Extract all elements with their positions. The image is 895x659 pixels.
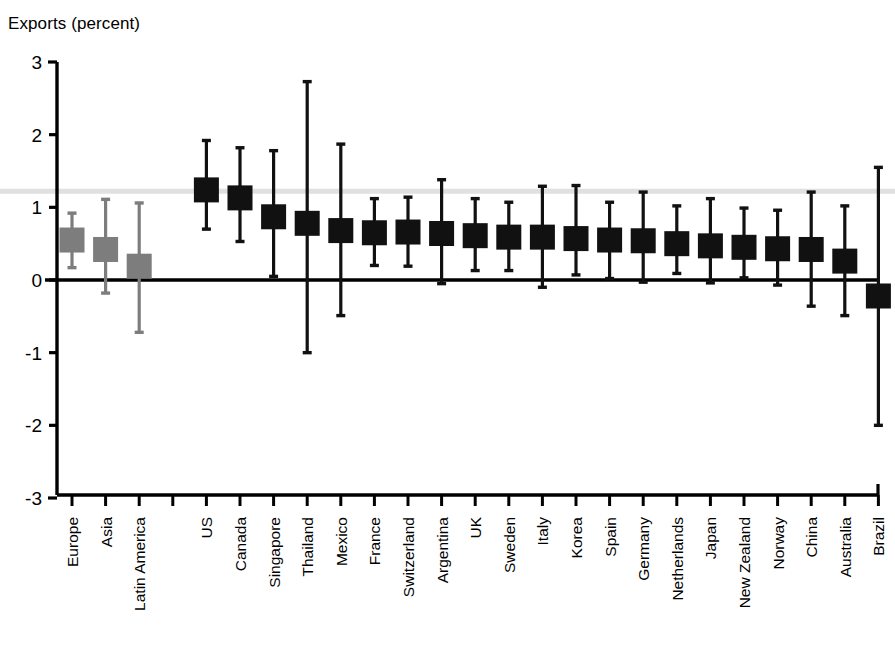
data-point-mexico [328, 144, 353, 315]
point-marker-square [564, 226, 589, 251]
point-marker-square [799, 237, 824, 262]
y-axis-tick-label: 2 [31, 125, 42, 146]
data-point-switzerland [396, 197, 421, 266]
chart-plot-area: 3210-1-2-3 EuropeAsiaLatin AmericaUSCana… [0, 0, 895, 659]
x-axis-tick-label: New Zealand [736, 517, 753, 608]
data-point-sweden [496, 202, 521, 270]
y-axis-tick-label: -3 [25, 488, 42, 509]
x-axis-tick-label: US [198, 517, 215, 539]
point-marker-square [396, 220, 421, 245]
x-axis [57, 484, 878, 506]
point-marker-square [93, 237, 118, 262]
x-axis-tick-label: Norway [770, 517, 787, 570]
x-axis-tick-label: Italy [534, 517, 551, 546]
x-axis-tick-label: Thailand [299, 517, 316, 576]
x-axis-tick-label: Argentina [434, 517, 451, 584]
data-point-latin-america [127, 203, 152, 332]
y-axis-tick-label: 3 [31, 52, 42, 73]
x-axis-tick-label: UK [467, 516, 484, 538]
point-marker-square [866, 283, 891, 308]
x-axis-tick-label: Asia [98, 517, 115, 548]
point-marker-square [261, 204, 286, 229]
data-point-brazil [866, 167, 891, 425]
data-point-china [799, 192, 824, 306]
data-point-norway [765, 210, 790, 285]
point-marker-square [429, 221, 454, 246]
x-axis-tick-label: Sweden [501, 517, 518, 573]
point-marker-square [631, 228, 656, 253]
y-axis-tick-label: -2 [25, 415, 42, 436]
point-marker-square [127, 254, 152, 279]
data-point-europe [60, 213, 85, 268]
point-marker-square [463, 223, 488, 248]
y-axis-tick-label: 1 [31, 197, 42, 218]
x-axis-tick-label: Brazil [870, 517, 887, 556]
point-marker-square [664, 231, 689, 256]
data-point-france [362, 199, 387, 266]
x-axis-tick-label: Singapore [266, 517, 283, 588]
data-point-netherlands [664, 206, 689, 274]
x-axis-labels: EuropeAsiaLatin AmericaUSCanadaSingapore… [64, 516, 887, 611]
data-point-italy [530, 186, 555, 287]
data-point-canada [228, 148, 253, 242]
data-point-korea [564, 186, 589, 275]
data-point-argentina [429, 180, 454, 284]
exports-dispersion-chart: Exports (percent) 3210-1-2-3 EuropeAsiaL… [0, 0, 895, 659]
data-point-germany [631, 192, 656, 282]
data-point-singapore [261, 151, 286, 277]
x-axis-tick-label: Germany [635, 517, 652, 581]
data-point-uk [463, 199, 488, 271]
point-marker-square [295, 211, 320, 236]
point-marker-square [228, 185, 253, 210]
x-axis-tick-label: China [803, 517, 820, 558]
x-axis-tick-label: Netherlands [669, 517, 686, 601]
point-marker-square [530, 225, 555, 250]
x-axis-tick-label: Europe [64, 517, 81, 567]
point-marker-square [328, 218, 353, 243]
data-point-australia [832, 206, 857, 316]
x-axis-tick-label: Spain [602, 517, 619, 557]
data-point-new-zealand [732, 208, 757, 278]
point-marker-square [496, 225, 521, 250]
y-axis-tick-label: -1 [25, 343, 42, 364]
x-axis-tick-label: Latin America [131, 517, 148, 611]
data-point-japan [698, 199, 723, 283]
point-marker-square [194, 177, 219, 202]
x-axis-tick-label: Mexico [333, 517, 350, 566]
point-marker-square [732, 235, 757, 260]
point-marker-square [698, 233, 723, 258]
data-point-thailand [295, 82, 320, 353]
data-markers [60, 82, 891, 426]
data-point-spain [597, 202, 622, 278]
x-axis-tick-label: Canada [232, 517, 249, 572]
point-marker-square [362, 220, 387, 245]
data-point-us [194, 140, 219, 229]
point-marker-square [832, 249, 857, 274]
point-marker-square [765, 236, 790, 261]
x-axis-tick-label: Japan [702, 517, 719, 559]
point-marker-square [597, 228, 622, 253]
x-axis-tick-label: France [366, 517, 383, 565]
x-axis-tick-label: Australia [837, 517, 854, 578]
y-axis-tick-label: 0 [31, 270, 42, 291]
x-axis-tick-label: Switzerland [400, 517, 417, 597]
point-marker-square [60, 228, 85, 253]
x-axis-tick-label: Korea [568, 517, 585, 559]
